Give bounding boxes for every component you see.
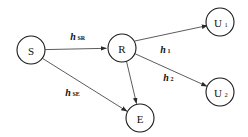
node-u2-subscript: 2 (225, 91, 228, 98)
node-u1[interactable]: U 1 (206, 8, 234, 36)
node-e-label: E (137, 113, 144, 125)
node-r[interactable]: R (108, 34, 136, 62)
network-graph-svg: S R U 1 U 2 E h (0, 0, 248, 137)
node-u1-subscript: 1 (225, 21, 228, 28)
edge-label-h-se-text: h (65, 87, 71, 98)
edge-label-h-sr-subscript: SR (78, 35, 86, 41)
edge-label-h-1-text: h (160, 44, 166, 55)
edge-s-to-e (43, 58, 128, 111)
edge-r-to-e (127, 61, 137, 103)
edge-label-h-1: h 1 (160, 44, 170, 55)
edge-r-to-u1 (135, 26, 208, 42)
edge-label-h-sr-text: h (70, 31, 76, 42)
network-diagram: S R U 1 U 2 E h (0, 0, 248, 137)
edge-label-h-2-text: h (163, 72, 169, 83)
node-s-label: S (28, 45, 34, 57)
node-u1-label: U (214, 17, 222, 29)
edge-label-h-2: h 2 (163, 72, 173, 83)
edge-label-h-1-subscript: 1 (168, 48, 171, 54)
edge-label-h-sr: h SR (70, 31, 86, 42)
edge-label-h-2-subscript: 2 (171, 76, 174, 82)
node-s[interactable]: S (17, 36, 45, 64)
edge-s-to-r (45, 48, 106, 49)
node-r-label: R (118, 43, 126, 55)
node-e[interactable]: E (126, 104, 154, 132)
node-u2[interactable]: U 2 (206, 78, 234, 106)
edge-label-h-se-subscript: SE (73, 91, 80, 97)
node-u2-label: U (214, 87, 222, 99)
edge-label-h-se: h SE (65, 87, 80, 98)
